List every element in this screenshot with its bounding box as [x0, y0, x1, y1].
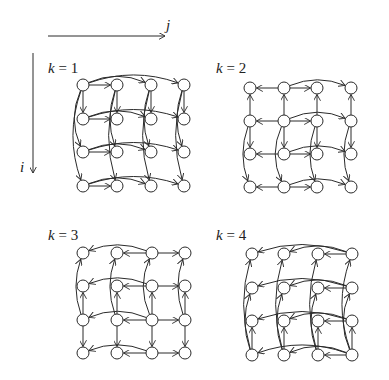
- grid-node: [346, 248, 358, 260]
- grid-node: [179, 280, 191, 292]
- edges: [243, 80, 351, 187]
- panel-label: k = 2: [216, 60, 246, 76]
- dependency-arrow: [89, 143, 178, 151]
- grid-node: [345, 181, 357, 193]
- grid-node: [111, 113, 123, 125]
- grid-node: [111, 347, 123, 359]
- grid-node: [278, 115, 290, 127]
- grid-node: [77, 79, 89, 91]
- grid-node: [246, 248, 258, 260]
- grid-node: [311, 181, 323, 193]
- grid-node: [312, 248, 324, 260]
- grid-node: [77, 247, 89, 259]
- grid-node: [311, 82, 323, 94]
- grid-node: [111, 247, 123, 259]
- grid-node: [145, 180, 157, 192]
- grid-node: [179, 247, 191, 259]
- grid-node: [179, 314, 191, 326]
- grid-node: [145, 113, 157, 125]
- grid-node: [312, 282, 324, 294]
- grid-node: [246, 282, 258, 294]
- dependency-arrow: [258, 345, 346, 353]
- panel-k2: k = 2: [216, 60, 357, 193]
- grid-node: [146, 347, 158, 359]
- edges: [244, 244, 352, 355]
- grid-node: [244, 148, 256, 160]
- grid-node: [278, 181, 290, 193]
- grid-node: [345, 115, 357, 127]
- grid-node: [346, 349, 358, 361]
- grid-node: [146, 314, 158, 326]
- grid-node: [111, 180, 123, 192]
- grid-node: [77, 280, 89, 292]
- panel-k3: k = 3: [48, 227, 191, 359]
- panel-k1: k = 1: [48, 60, 190, 192]
- grid-node: [145, 146, 157, 158]
- grid-node: [278, 148, 290, 160]
- grid-node: [312, 349, 324, 361]
- dependency-arrow: [258, 311, 346, 319]
- grid-node: [311, 115, 323, 127]
- j-axis: j: [48, 17, 170, 36]
- dependency-arrow: [258, 278, 346, 286]
- nodes: [77, 79, 190, 192]
- grid-node: [244, 181, 256, 193]
- grid-node: [77, 347, 89, 359]
- grid-node: [77, 180, 89, 192]
- grid-node: [178, 180, 190, 192]
- panel-k4: k = 4: [216, 227, 358, 361]
- grid-node: [146, 247, 158, 259]
- grid-node: [244, 115, 256, 127]
- grid-node: [178, 113, 190, 125]
- grid-node: [345, 82, 357, 94]
- grid-node: [312, 315, 324, 327]
- i-axis-label: i: [20, 159, 24, 175]
- grid-node: [179, 347, 191, 359]
- grid-node: [278, 349, 290, 361]
- grid-node: [278, 315, 290, 327]
- grid-node: [311, 148, 323, 160]
- grid-node: [111, 314, 123, 326]
- nodes: [246, 248, 358, 361]
- grid-node: [278, 82, 290, 94]
- nodes: [77, 247, 191, 359]
- grid-node: [111, 79, 123, 91]
- grid-node: [246, 315, 258, 327]
- grid-node: [345, 148, 357, 160]
- panel-label: k = 1: [48, 60, 78, 76]
- grid-node: [278, 282, 290, 294]
- grid-node: [178, 79, 190, 91]
- panel-label: k = 3: [48, 227, 78, 243]
- grid-node: [246, 349, 258, 361]
- i-axis: i: [20, 53, 33, 175]
- dependency-arrow: [89, 75, 178, 83]
- grid-node: [111, 146, 123, 158]
- nodes: [244, 82, 357, 193]
- edges: [76, 245, 185, 353]
- dependency-arrow: [89, 110, 178, 118]
- grid-node: [146, 280, 158, 292]
- grid-node: [178, 146, 190, 158]
- grid-node: [244, 82, 256, 94]
- grid-node: [77, 146, 89, 158]
- edges: [73, 75, 184, 186]
- grid-node: [77, 314, 89, 326]
- grid-node: [278, 248, 290, 260]
- grid-node: [346, 315, 358, 327]
- grid-node: [111, 280, 123, 292]
- grid-node: [77, 113, 89, 125]
- dependency-diagram: j i k = 1k = 2k = 3k = 4: [0, 0, 389, 380]
- grid-node: [346, 282, 358, 294]
- panels: k = 1k = 2k = 3k = 4: [48, 60, 358, 361]
- dependency-arrow: [89, 177, 178, 185]
- panel-label: k = 4: [216, 227, 247, 243]
- grid-node: [145, 79, 157, 91]
- j-axis-label: j: [164, 17, 170, 33]
- dependency-arrow: [258, 244, 346, 252]
